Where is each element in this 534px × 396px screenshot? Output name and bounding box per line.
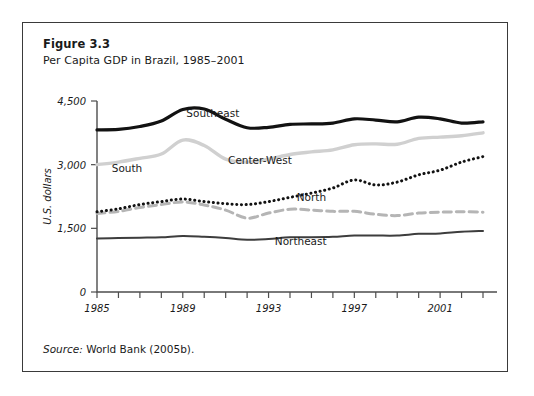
x-tick-label: 1985 [84,303,109,314]
y-tick-label: 0 [80,287,86,298]
series-label-southeast: Southeast [186,107,239,119]
series-line-southeast [97,108,483,130]
source-text: World Bank (2005b). [83,343,194,355]
series-label-center-west: Center-West [228,154,292,166]
source-note: Source: World Bank (2005b). [43,343,194,355]
x-tick-label: 1997 [342,303,368,314]
figure-panel: Figure 3.3 Per Capita GDP in Brazil, 198… [22,22,508,372]
x-tick-label: 2001 [427,303,452,314]
x-tick-label: 1989 [170,303,195,314]
y-tick-label: 3,000 [57,160,86,171]
y-tick-label: 4,500 [57,96,86,107]
line-chart: 01,5003,0004,500U.S. dollars198519891993… [23,23,509,373]
series-label-north: North [297,191,326,203]
series-line-north [97,202,483,218]
source-label: Source: [43,343,83,355]
y-axis-ticks: 01,5003,0004,500 [57,96,97,298]
y-tick-label: 1,500 [57,223,86,234]
x-axis-ticks: 19851989199319972001 [84,292,483,314]
y-axis-title: U.S. dollars [42,168,53,225]
x-tick-label: 1993 [256,303,281,314]
series-label-northeast: Northeast [275,235,327,247]
series-label-south: South [112,162,143,174]
